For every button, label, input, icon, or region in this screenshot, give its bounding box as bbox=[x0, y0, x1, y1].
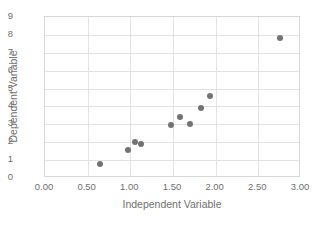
gridline-vertical bbox=[258, 17, 259, 176]
y-axis-tick-label: 4 bbox=[0, 100, 13, 110]
y-axis-tick-label: 1 bbox=[0, 154, 13, 164]
gridline-horizontal bbox=[45, 142, 299, 143]
x-axis-tick-label: 3.00 bbox=[280, 181, 319, 192]
x-axis-tick-label: 1.00 bbox=[109, 181, 149, 192]
data-point bbox=[132, 139, 138, 145]
gridline-vertical bbox=[130, 17, 131, 176]
y-axis-tick-label: 0 bbox=[0, 172, 13, 182]
x-axis-title: Independent Variable bbox=[44, 198, 300, 210]
x-axis-tick-label: 2.00 bbox=[195, 181, 235, 192]
x-axis-tick-label: 0.00 bbox=[24, 181, 64, 192]
gridline-horizontal bbox=[45, 71, 299, 72]
data-point bbox=[177, 114, 183, 120]
y-axis-tick-label: 3 bbox=[0, 118, 13, 128]
x-axis-tick-label: 1.50 bbox=[152, 181, 192, 192]
x-axis-tick-label: 2.50 bbox=[237, 181, 277, 192]
y-axis-tick-label: 6 bbox=[0, 65, 13, 75]
y-axis-tick-label: 2 bbox=[0, 136, 13, 146]
data-point bbox=[187, 121, 193, 127]
data-point bbox=[277, 35, 283, 41]
gridline-horizontal bbox=[45, 53, 299, 54]
gridline-horizontal bbox=[45, 106, 299, 107]
data-point bbox=[97, 161, 103, 167]
data-point bbox=[198, 105, 204, 111]
gridline-horizontal bbox=[45, 35, 299, 36]
y-axis-tick-label: 7 bbox=[0, 47, 13, 57]
gridline-horizontal bbox=[45, 160, 299, 161]
data-point bbox=[138, 141, 144, 147]
gridline-vertical bbox=[173, 17, 174, 176]
plot-area bbox=[44, 16, 300, 177]
gridline-horizontal bbox=[45, 89, 299, 90]
y-axis-tick-label: 5 bbox=[0, 83, 13, 93]
y-axis-tick-label: 8 bbox=[0, 29, 13, 39]
y-axis-tick-label: 9 bbox=[0, 11, 13, 21]
gridline-vertical bbox=[88, 17, 89, 176]
x-axis-tick-label: 0.50 bbox=[67, 181, 107, 192]
gridline-vertical bbox=[216, 17, 217, 176]
data-point bbox=[207, 93, 213, 99]
scatter-chart: Dependent Variable Independent Variable … bbox=[0, 0, 319, 227]
